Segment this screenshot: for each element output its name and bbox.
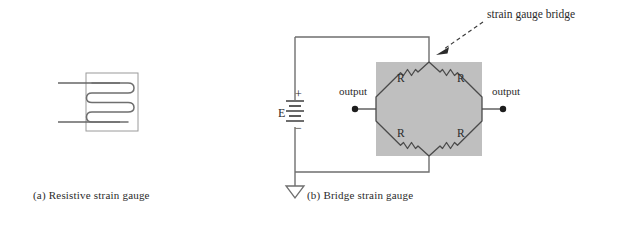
panel-a-group <box>58 73 138 131</box>
source-label-e: E <box>278 106 285 121</box>
polarity-plus-label: + <box>295 88 302 100</box>
figure-root: R R R R output output E + − strain gauge… <box>0 0 626 226</box>
bridge-shading-box <box>376 62 482 156</box>
output-terminal-left[interactable] <box>352 106 358 112</box>
callout-dashed-line <box>444 22 483 49</box>
battery-symbol <box>286 101 304 121</box>
resistor-label-bottom-left: R <box>397 127 405 139</box>
supply-wire-top <box>295 37 429 62</box>
resistor-label-top-left: R <box>397 72 405 84</box>
supply-wire-bottom <box>295 156 429 172</box>
caption-panel-a: (a) Resistive strain gauge <box>33 189 150 201</box>
callout-arrowhead-icon <box>436 47 449 55</box>
caption-panel-b: (b) Bridge strain gauge <box>307 189 413 201</box>
ground-symbol <box>286 186 304 198</box>
panel-b-group <box>286 22 506 198</box>
output-label-right: output <box>492 85 520 97</box>
callout-label-strain-gauge-bridge: strain gauge bridge <box>487 8 575 20</box>
gauge-serpentine-foil <box>87 83 135 122</box>
resistor-label-bottom-right: R <box>457 127 465 139</box>
output-terminal-right[interactable] <box>500 106 506 112</box>
output-label-left: output <box>339 85 367 97</box>
polarity-minus-label: − <box>295 122 302 134</box>
resistor-label-top-right: R <box>457 72 465 84</box>
